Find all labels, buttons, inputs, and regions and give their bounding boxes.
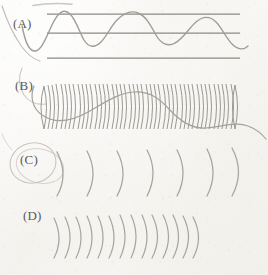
panel-b-group: [32, 84, 266, 139]
left-edge-curve-a: [2, 6, 40, 61]
panel-d-wavefront-arc: [152, 215, 158, 258]
panel-b-coil-arc: [129, 84, 132, 129]
panel-b-coil-arc: [82, 84, 85, 129]
panel-label-d: (D): [23, 208, 42, 224]
panel-b-coil-arc: [78, 84, 81, 129]
panel-b-coil-arc: [214, 84, 217, 129]
panel-b-coil-arc: [163, 84, 166, 129]
top-smudge-stroke: [33, 3, 72, 5]
panel-c-wavefront-arc: [207, 149, 213, 196]
panel-label-c: (C): [20, 152, 38, 168]
panel-d-wavefront-arc: [54, 218, 59, 258]
panel-d-wavefront-arc: [142, 215, 147, 258]
panel-b-coil-arc: [48, 85, 51, 129]
panel-d-group: [54, 215, 199, 258]
panel-d-wavefront-arc: [193, 217, 199, 258]
panel-b-coil-arc: [201, 84, 204, 129]
panel-b-coil-arc: [86, 84, 89, 129]
panel-b-coil-arc: [218, 84, 221, 129]
panel-c-wavefront-arc: [177, 150, 183, 196]
panel-b-coil-arc: [65, 84, 68, 129]
panel-d-wavefront-arc: [173, 215, 179, 258]
panel-b-coil-cap-left: [41, 86, 44, 129]
panel-c-wavefront-arc: [87, 151, 93, 196]
panel-b-coil-arc: [99, 84, 102, 129]
panel-d-wavefront-arc: [65, 217, 70, 258]
ink-layer: [0, 0, 268, 275]
panel-d-wavefront-arc: [87, 216, 92, 258]
panel-b-coil-arc: [222, 84, 225, 129]
panel-b-coil-arc: [205, 84, 208, 129]
panel-label-a: (A): [13, 16, 32, 32]
panel-d-wavefront-arc: [183, 216, 189, 258]
panel-b-coil-arc: [188, 84, 191, 129]
panel-c-group: [57, 148, 239, 196]
panel-b-coil-arc: [154, 84, 157, 129]
panel-b-coil-arc: [175, 84, 178, 129]
panel-b-coil-arc: [150, 84, 153, 129]
panel-b-coil-arc: [103, 84, 106, 129]
panel-b-coil-arc: [192, 84, 195, 129]
panel-d-wavefront-arc: [131, 215, 136, 258]
panel-b-coil-arc: [180, 84, 183, 129]
loop-tail-c: [2, 134, 12, 150]
panel-b-coil-arc: [112, 84, 115, 129]
panel-b-coil-arc: [120, 84, 123, 129]
panel-b-coil-arc: [146, 84, 149, 129]
panel-b-coil-arc: [116, 84, 119, 129]
panel-a-group: [22, 11, 248, 58]
panel-b-coil-arc: [235, 85, 238, 129]
panel-b-coil-arc: [197, 84, 200, 129]
panel-b-coil-arc: [56, 84, 59, 129]
panel-c-wavefront-arc: [232, 148, 239, 196]
panel-b-coil-arc: [44, 86, 47, 129]
panel-b-coil-arc: [90, 84, 93, 129]
panel-b-coil-arc: [209, 84, 212, 129]
panel-d-wavefront-arc: [98, 216, 103, 258]
panel-b-coil-arc: [124, 84, 127, 129]
panel-b-coil-arc: [171, 84, 174, 129]
panel-b-coil-arc: [226, 84, 229, 129]
panel-a-sine-wave: [22, 11, 248, 51]
panel-d-wavefront-arc: [120, 215, 125, 258]
panel-b-coil-arc: [52, 85, 55, 129]
panel-b-coil-arc: [73, 84, 76, 129]
panel-d-wavefront-arc: [76, 217, 81, 258]
panel-b-coil-arc: [69, 84, 72, 129]
figure-canvas: (A) (B) (C) (D): [0, 0, 268, 275]
panel-b-coil-arc: [137, 84, 140, 129]
panel-label-b: (B): [15, 78, 33, 94]
panel-b-coil-arc: [61, 84, 64, 129]
panel-d-wavefront-arc: [109, 216, 114, 258]
panel-b-coil-arc: [107, 84, 110, 129]
panel-c-wavefront-arc: [117, 151, 123, 196]
panel-d-wavefront-arc: [163, 215, 169, 258]
panel-b-coil-arc: [141, 84, 144, 129]
panel-b-coil-arc: [133, 84, 136, 129]
panel-b-coil-arc: [158, 84, 161, 129]
panel-c-wavefront-arc: [147, 150, 153, 196]
